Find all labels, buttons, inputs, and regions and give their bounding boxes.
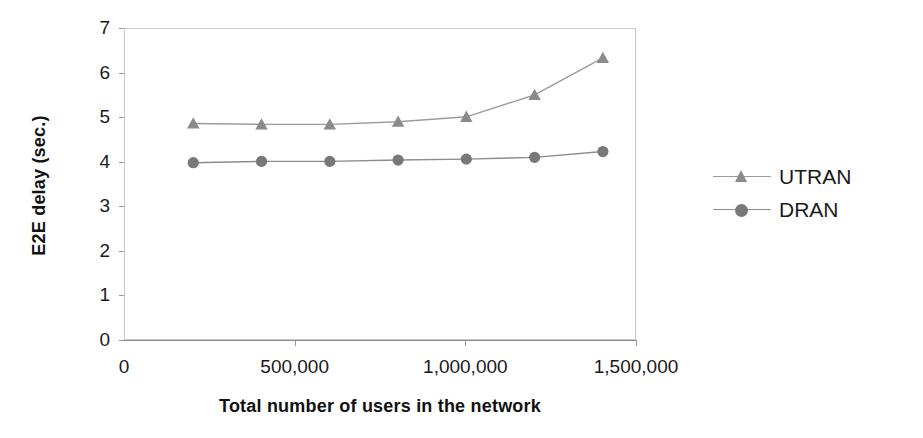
x-tick-label: 1,000,000 bbox=[385, 357, 545, 376]
plot-area bbox=[124, 28, 636, 340]
x-tick-mark bbox=[295, 341, 296, 346]
x-tick-mark bbox=[636, 341, 637, 346]
x-axis-title: Total number of users in the network bbox=[124, 396, 636, 417]
data-point-marker bbox=[528, 89, 540, 100]
y-tick-label: 2 bbox=[76, 241, 110, 260]
data-point-marker bbox=[392, 154, 403, 165]
data-point-marker bbox=[324, 156, 335, 167]
data-point-marker bbox=[529, 152, 540, 163]
y-tick-label: 5 bbox=[76, 107, 110, 126]
data-point-marker bbox=[460, 111, 472, 122]
series-line bbox=[193, 58, 603, 124]
y-tick-label: 6 bbox=[76, 63, 110, 82]
triangle-marker-icon bbox=[735, 170, 747, 182]
y-tick-label: 0 bbox=[76, 330, 110, 349]
data-point-marker bbox=[256, 156, 267, 167]
legend-swatch bbox=[713, 167, 771, 187]
data-point-marker bbox=[597, 52, 609, 63]
y-tick-label: 3 bbox=[76, 196, 110, 215]
y-tick-label: 1 bbox=[76, 285, 110, 304]
x-tick-label: 500,000 bbox=[215, 357, 375, 376]
legend-item-dran[interactable]: DRAN bbox=[713, 193, 873, 226]
series-dran bbox=[188, 146, 609, 168]
legend-label: UTRAN bbox=[779, 166, 851, 187]
data-point-marker bbox=[597, 146, 608, 157]
data-point-marker bbox=[461, 154, 472, 165]
legend-swatch bbox=[713, 200, 771, 220]
series-utran bbox=[187, 52, 609, 130]
x-axis-line bbox=[124, 340, 637, 341]
y-axis-title: E2E delay (sec.) bbox=[29, 81, 50, 291]
legend-label: DRAN bbox=[779, 199, 839, 220]
x-tick-label: 1,500,000 bbox=[556, 357, 716, 376]
legend-item-utran[interactable]: UTRAN bbox=[713, 160, 873, 193]
chart-legend: UTRANDRAN bbox=[713, 160, 873, 226]
x-tick-mark bbox=[465, 341, 466, 346]
x-tick-label: 0 bbox=[44, 357, 204, 376]
y-tick-label: 7 bbox=[76, 18, 110, 37]
y-tick-label: 4 bbox=[76, 152, 110, 171]
circle-marker-icon bbox=[735, 204, 748, 217]
series-canvas bbox=[125, 29, 637, 341]
data-point-marker bbox=[188, 157, 199, 168]
chart-figure: E2E delay (sec.) 01234567 0500,0001,000,… bbox=[0, 0, 923, 438]
